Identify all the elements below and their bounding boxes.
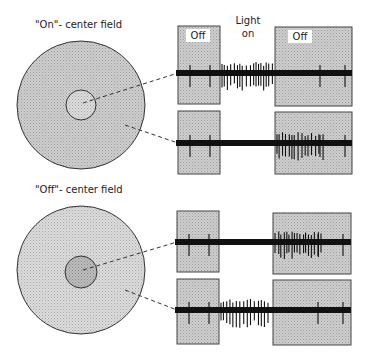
off-center-title: "Off"- center field	[35, 184, 123, 195]
trace-baseline-3	[175, 239, 351, 245]
trace-baseline-4	[175, 307, 351, 313]
on-center-field	[17, 41, 178, 169]
off-center-field	[17, 206, 177, 334]
off-label-left: Off	[186, 29, 210, 42]
off-period-box-right-1	[275, 27, 352, 106]
receptive-field-diagram: "On"- center field "Off"- center field L…	[0, 0, 371, 358]
light-on-label-line2: on	[242, 28, 254, 39]
svg-text:Off: Off	[191, 30, 207, 41]
on-center-title: "On"- center field	[35, 19, 122, 30]
off-center-center	[65, 256, 97, 288]
trace-baseline-2	[176, 140, 352, 146]
light-on-label-line1: Light	[236, 15, 261, 26]
on-center-center	[66, 90, 96, 120]
off-label-right: Off	[288, 30, 312, 43]
svg-text:Off: Off	[293, 31, 309, 42]
